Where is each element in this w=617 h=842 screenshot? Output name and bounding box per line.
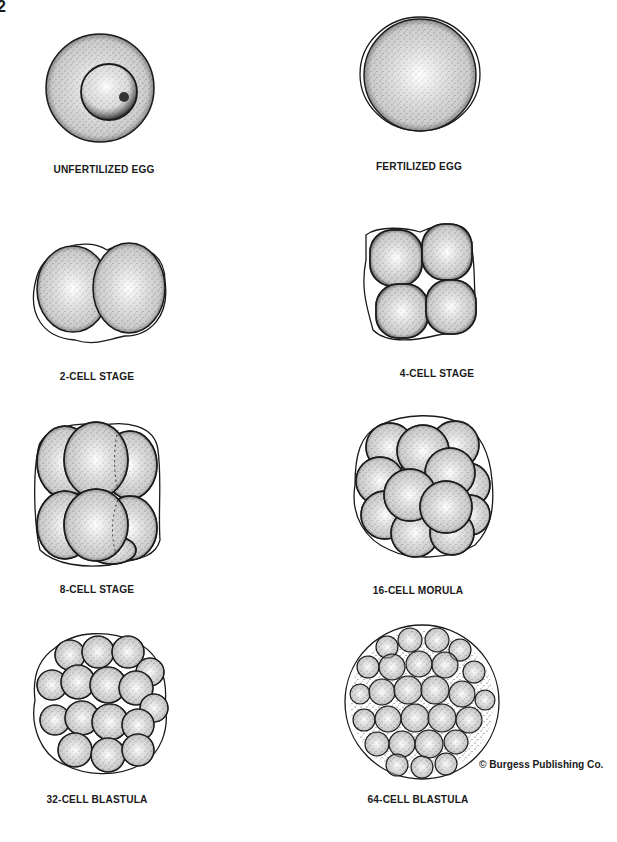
16-cell-morula-illustration (350, 415, 495, 560)
64-cell-blastula-icon (342, 622, 502, 782)
stage-label: UNFERTILIZED EGG (53, 163, 154, 175)
stage-label: FERTILIZED EGG (376, 160, 462, 172)
4-cell-stage-icon (358, 220, 483, 345)
16-cell-morula-icon (350, 415, 495, 560)
64-cell-blastula-illustration (342, 622, 502, 782)
stage-label: 64-CELL BLASTULA (367, 793, 468, 805)
2-cell-stage-icon (25, 236, 175, 351)
2-cell-stage-illustration (25, 236, 175, 351)
stage-label: 2-CELL STAGE (60, 370, 134, 382)
32-cell-blastula-icon (30, 630, 170, 775)
page-number: 2 (0, 0, 6, 16)
32-cell-blastula-illustration (30, 630, 170, 775)
fertilized-egg-illustration (355, 14, 485, 144)
4-cell-stage-illustration (358, 220, 483, 345)
fertilized-egg-icon (355, 14, 485, 144)
unfertilized-egg-illustration (40, 28, 165, 153)
copyright-notice: © Burgess Publishing Co. (479, 758, 603, 770)
stage-label: 8-CELL STAGE (60, 583, 134, 595)
unfertilized-egg-icon (40, 28, 165, 153)
stage-label: 4-CELL STAGE (400, 367, 474, 379)
stage-label: 16-CELL MORULA (373, 584, 464, 596)
8-cell-stage-icon (30, 420, 165, 570)
8-cell-stage-illustration (30, 420, 165, 570)
stage-label: 32-CELL BLASTULA (46, 793, 147, 805)
